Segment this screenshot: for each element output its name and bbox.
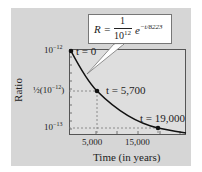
x-axis-ticks xyxy=(96,131,180,135)
y-axis-label: Ratio xyxy=(12,78,24,102)
x-tick-5000: 5,000 xyxy=(82,137,102,147)
y-tick-1e-13: 10−13 xyxy=(44,121,62,132)
point-t0 xyxy=(69,49,74,54)
x-axis-label: Time (in years) xyxy=(93,151,160,163)
annotation-t0: t = 0 xyxy=(76,45,96,57)
annotation-t19000: t = 19,000 xyxy=(140,112,185,124)
annotation-t5700: t = 5,700 xyxy=(106,84,146,96)
formula-box: R = 1 1012 e−t/8223 xyxy=(88,14,172,44)
y-axis-ticks xyxy=(69,57,72,129)
formula-lhs: R = xyxy=(94,23,111,35)
formula-numerator: 1 xyxy=(120,15,125,26)
point-t5700 xyxy=(95,89,100,94)
y-tick-half: ½(10−12) xyxy=(33,84,64,95)
x-tick-15000: 15,000 xyxy=(125,137,150,147)
formula-exp: e−t/8223 xyxy=(135,23,163,36)
y-tick-1e-12: 10−12 xyxy=(44,44,62,55)
formula-denominator: 1012 xyxy=(114,29,131,41)
point-t19000 xyxy=(156,126,161,131)
